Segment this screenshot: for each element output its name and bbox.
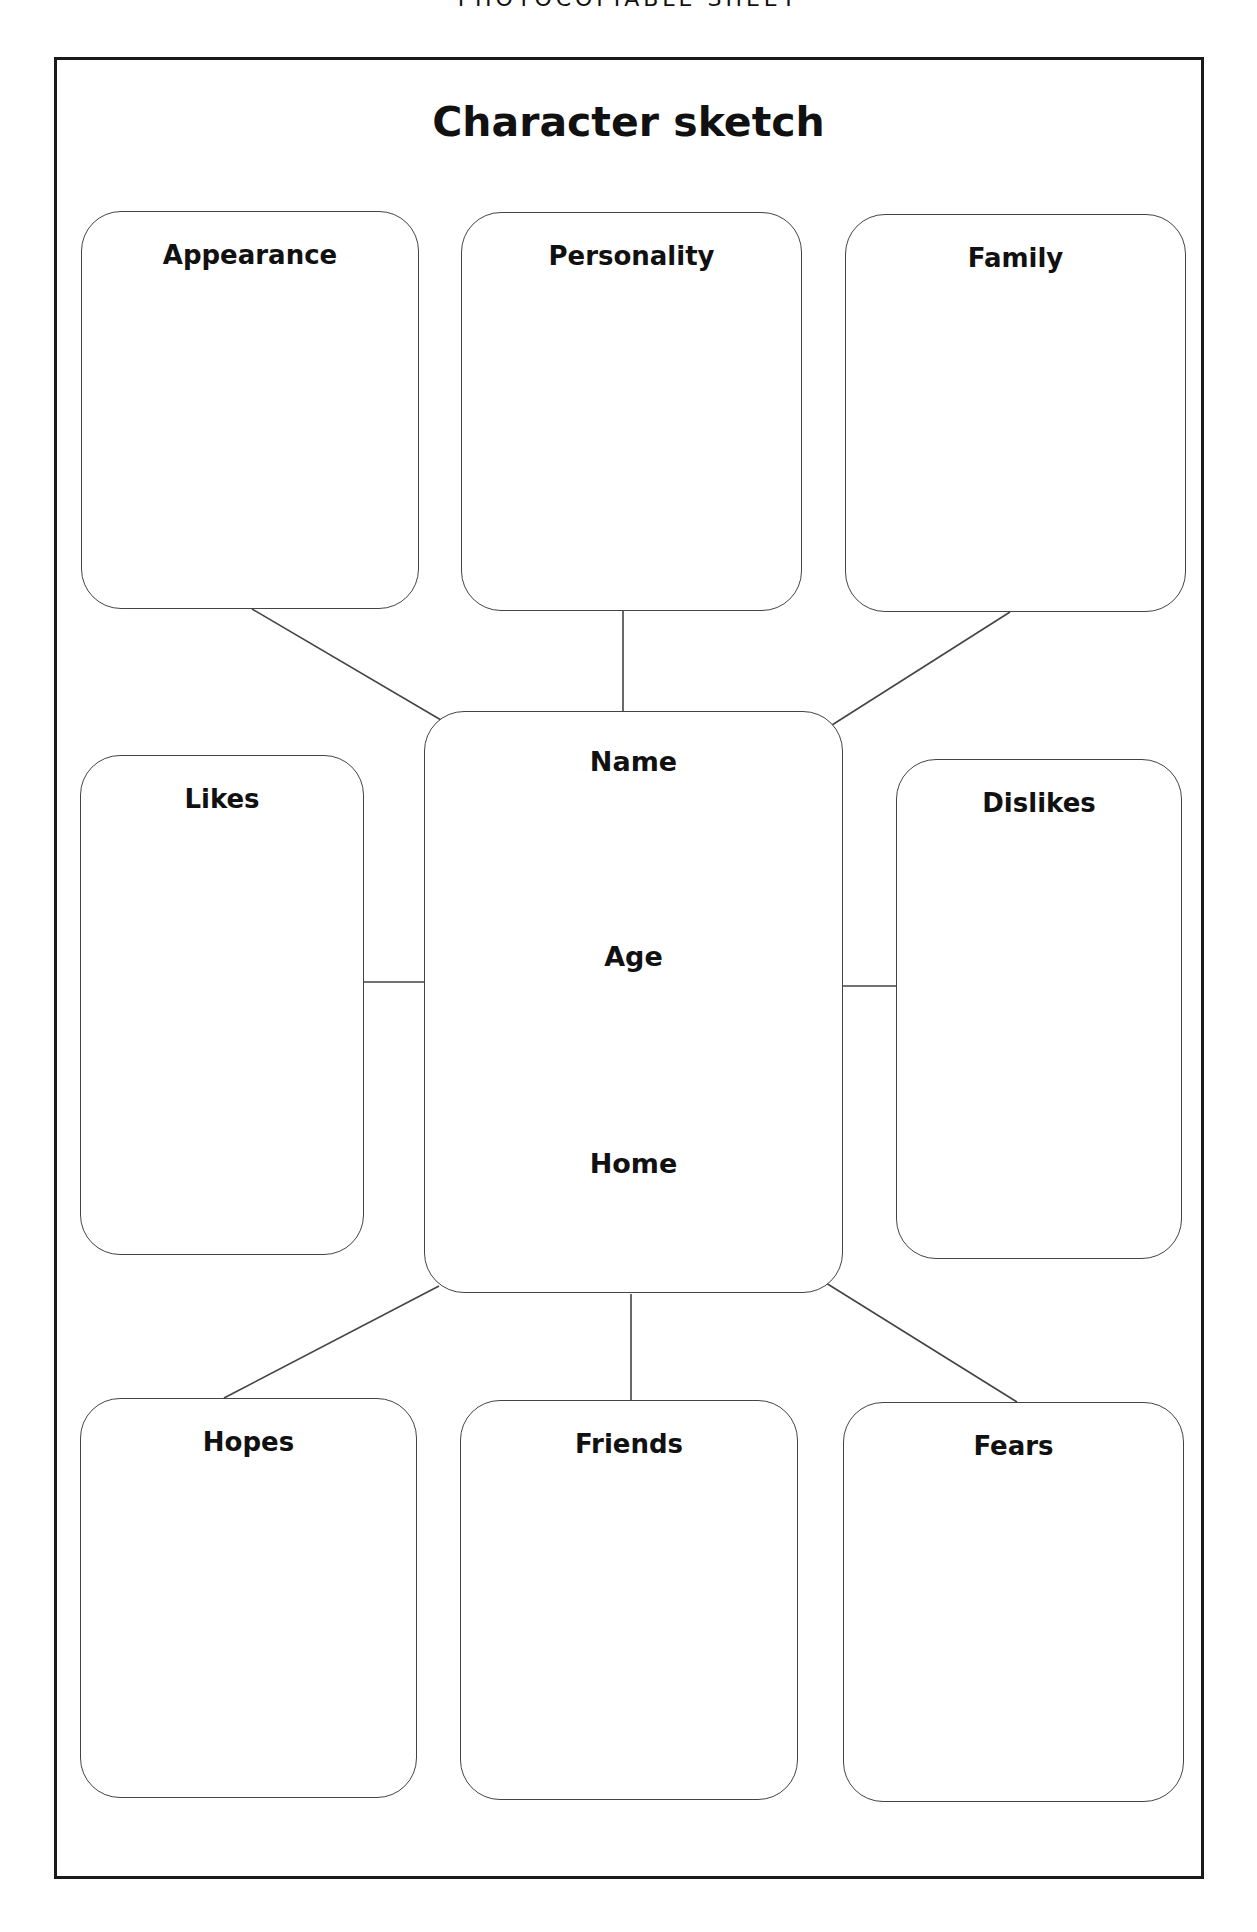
center-label-name: Name — [425, 746, 842, 777]
connector-fears — [826, 1283, 1017, 1402]
box-friends[interactable]: Friends — [460, 1400, 798, 1800]
connector-hopes — [224, 1286, 439, 1398]
box-fears[interactable]: Fears — [843, 1402, 1184, 1802]
box-label-dislikes: Dislikes — [897, 788, 1181, 818]
connector-appearance — [252, 609, 441, 720]
box-label-family: Family — [846, 243, 1185, 273]
box-label-fears: Fears — [844, 1431, 1183, 1461]
center-label-age: Age — [425, 941, 842, 972]
box-hopes[interactable]: Hopes — [80, 1398, 417, 1798]
box-label-hopes: Hopes — [81, 1427, 416, 1457]
box-label-friends: Friends — [461, 1429, 797, 1459]
box-label-likes: Likes — [81, 784, 363, 814]
center-label-home: Home — [425, 1148, 842, 1179]
box-personality[interactable]: Personality — [461, 212, 802, 611]
box-likes[interactable]: Likes — [80, 755, 364, 1255]
box-dislikes[interactable]: Dislikes — [896, 759, 1182, 1259]
box-family[interactable]: Family — [845, 214, 1186, 612]
box-label-personality: Personality — [462, 241, 801, 271]
box-label-appearance: Appearance — [82, 240, 418, 270]
connector-family — [832, 612, 1010, 725]
box-center[interactable]: Name Age Home — [424, 711, 843, 1293]
box-appearance[interactable]: Appearance — [81, 211, 419, 609]
